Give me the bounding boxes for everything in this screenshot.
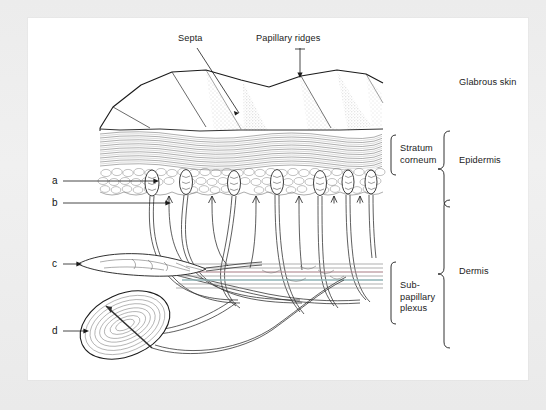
diagram-illustration [0, 0, 546, 410]
bracket-epidermis [438, 131, 450, 207]
label-septa: Septa [178, 33, 203, 45]
key-label-a: a [52, 175, 58, 186]
figure-frame: Septa Papillary ridges Glabrous skin Str… [0, 0, 546, 410]
stratum-corneum-layer [100, 132, 383, 171]
label-glabrous-skin: Glabrous skin [459, 77, 516, 89]
ruffini-ending [78, 254, 262, 277]
label-epidermis: Epidermis [459, 155, 501, 167]
label-papillary-ridges: Papillary ridges [256, 33, 320, 45]
key-label-c: c [52, 258, 57, 269]
bracket-sub-papillary-plexus [391, 262, 396, 324]
key-label-b: b [52, 197, 58, 208]
merkel-nerve-ending [166, 196, 364, 204]
bracket-dermis [438, 200, 450, 348]
papillary-ridge-surface [100, 70, 383, 131]
label-sub-papillary-plexus: Sub- papillary plexus [400, 280, 435, 315]
bracket-stratum-corneum [391, 135, 396, 175]
label-stratum-corneum: Stratum corneum [400, 143, 436, 166]
pacinian-corpuscle [69, 277, 346, 372]
label-dermis: Dermis [459, 266, 489, 278]
key-label-d: d [52, 325, 58, 336]
